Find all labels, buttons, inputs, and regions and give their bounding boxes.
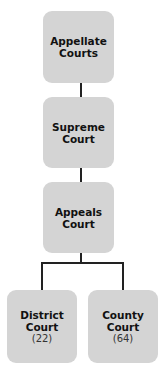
node-label: Court [62, 218, 95, 230]
connector-to-county [122, 262, 124, 290]
node-district-court: District Court (22) [7, 290, 77, 363]
node-label: Court [107, 321, 140, 333]
connector-appellate-supreme [80, 83, 82, 97]
node-label: Court [62, 133, 95, 145]
connector-supreme-appeals [80, 168, 82, 182]
node-appeals-court: Appeals Court [43, 182, 114, 253]
node-label: County [102, 309, 144, 321]
node-label: Courts [59, 47, 98, 59]
node-label: Court [26, 321, 59, 333]
connector-to-district [41, 262, 43, 290]
node-appellate-courts: Appellate Courts [43, 11, 114, 83]
node-county-court: County Court (64) [88, 290, 158, 363]
node-supreme-court: Supreme Court [43, 97, 114, 168]
connector-horizontal [41, 262, 123, 264]
node-label: District [20, 309, 64, 321]
node-label: Appellate [50, 35, 107, 47]
node-count: (22) [32, 333, 53, 345]
node-count: (64) [113, 333, 134, 345]
node-label: Supreme [52, 121, 105, 133]
node-label: Appeals [55, 206, 102, 218]
